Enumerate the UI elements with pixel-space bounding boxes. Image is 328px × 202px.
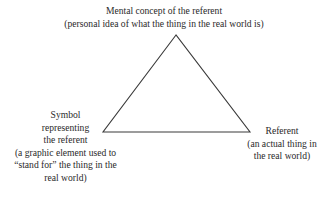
symbol-description-line3: real world) — [0, 172, 131, 185]
referent-description-line2: the real world) — [236, 150, 328, 163]
symbol-title: Symbol — [0, 109, 131, 122]
symbol-title-line3: the referent — [0, 134, 131, 147]
referent-description-line1: (an actual thing in — [236, 138, 328, 151]
symbol-title-line2: representing — [0, 122, 131, 135]
mental-concept-description: (personal idea of what the thing in the … — [0, 18, 328, 31]
mental-concept-label: Mental concept of the referent (personal… — [0, 5, 328, 30]
symbol-description-line2: “stand for” the thing in the — [0, 159, 131, 172]
referent-title: Referent — [236, 125, 328, 138]
referent-label: Referent (an actual thing in the real wo… — [236, 125, 328, 163]
symbol-description-line1: (a graphic element used to — [0, 147, 131, 160]
symbol-label: Symbol representing the referent (a grap… — [0, 109, 131, 185]
mental-concept-title: Mental concept of the referent — [0, 5, 328, 18]
